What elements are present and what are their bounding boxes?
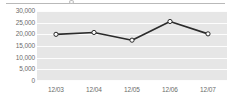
y-axis-tick-label: 10,000 bbox=[0, 54, 35, 61]
top-divider-marker-icon bbox=[69, 0, 74, 4]
y-axis-tick-label: 0 bbox=[0, 77, 35, 84]
data-point-marker[interactable] bbox=[92, 30, 96, 34]
y-axis-tick-label: 15,000 bbox=[0, 42, 35, 49]
top-divider-rule bbox=[6, 3, 225, 4]
y-axis: 05,00010,00015,00020,00025,00030,000 bbox=[0, 7, 35, 86]
x-axis-tick-label: 12/03 bbox=[48, 86, 64, 94]
x-axis-tick-label: 12/07 bbox=[200, 86, 216, 94]
x-axis-tick-label: 12/04 bbox=[86, 86, 102, 94]
data-point-marker[interactable] bbox=[54, 32, 58, 36]
plot-area bbox=[37, 11, 227, 81]
data-point-marker[interactable] bbox=[130, 38, 134, 42]
data-point-marker[interactable] bbox=[168, 19, 172, 23]
x-axis: 12/0312/0412/0512/0612/07 bbox=[37, 86, 227, 98]
x-axis-tick-label: 12/06 bbox=[162, 86, 178, 94]
y-axis-tick-label: 30,000 bbox=[0, 7, 35, 14]
data-series-line bbox=[37, 11, 227, 81]
y-axis-tick-label: 5,000 bbox=[0, 65, 35, 72]
series-line bbox=[56, 22, 208, 41]
y-axis-tick-label: 25,000 bbox=[0, 19, 35, 26]
line-chart-widget: 05,00010,00015,00020,00025,00030,000 12/… bbox=[0, 0, 231, 108]
data-point-marker[interactable] bbox=[206, 32, 210, 36]
x-axis-tick-label: 12/05 bbox=[124, 86, 140, 94]
y-axis-tick-label: 20,000 bbox=[0, 30, 35, 37]
